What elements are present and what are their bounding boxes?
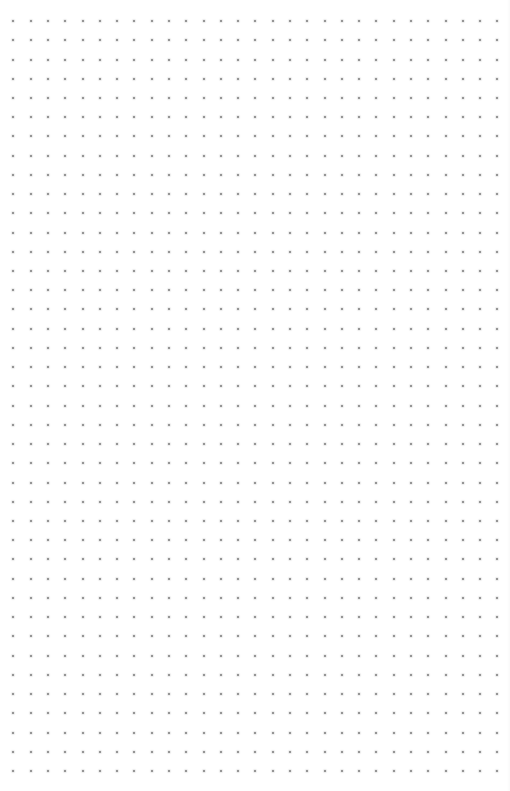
grid-dot bbox=[496, 616, 498, 618]
grid-dot bbox=[30, 39, 32, 41]
grid-dot bbox=[12, 385, 14, 387]
grid-dot bbox=[133, 135, 135, 137]
grid-dot bbox=[30, 405, 32, 407]
grid-dot bbox=[462, 712, 464, 714]
grid-dot bbox=[237, 712, 239, 714]
grid-dot bbox=[272, 443, 274, 445]
grid-dot bbox=[324, 462, 326, 464]
grid-dot bbox=[393, 520, 395, 522]
grid-dot bbox=[82, 116, 84, 118]
grid-dot bbox=[116, 251, 118, 253]
grid-dot bbox=[272, 251, 274, 253]
grid-dot bbox=[393, 597, 395, 599]
grid-dot bbox=[99, 578, 101, 580]
grid-dot bbox=[168, 20, 170, 22]
grid-dot bbox=[254, 289, 256, 291]
grid-dot bbox=[358, 482, 360, 484]
grid-dot bbox=[341, 155, 343, 157]
grid-dot bbox=[306, 405, 308, 407]
grid-dot bbox=[445, 328, 447, 330]
grid-dot bbox=[47, 501, 49, 503]
grid-dot bbox=[203, 443, 205, 445]
grid-dot bbox=[12, 751, 14, 753]
grid-dot bbox=[324, 655, 326, 657]
grid-dot bbox=[151, 424, 153, 426]
grid-dot bbox=[306, 597, 308, 599]
grid-dot bbox=[116, 97, 118, 99]
grid-dot bbox=[462, 501, 464, 503]
grid-dot bbox=[496, 597, 498, 599]
grid-dot bbox=[427, 270, 429, 272]
grid-dot bbox=[254, 347, 256, 349]
grid-dot bbox=[410, 462, 412, 464]
grid-dot bbox=[462, 616, 464, 618]
grid-dot bbox=[220, 97, 222, 99]
grid-dot bbox=[445, 366, 447, 368]
grid-dot bbox=[358, 39, 360, 41]
grid-dot bbox=[462, 597, 464, 599]
grid-dot bbox=[496, 482, 498, 484]
grid-dot bbox=[133, 770, 135, 772]
grid-dot bbox=[306, 424, 308, 426]
grid-dot bbox=[306, 501, 308, 503]
grid-dot bbox=[306, 270, 308, 272]
grid-dot bbox=[12, 635, 14, 637]
grid-dot bbox=[375, 501, 377, 503]
grid-dot bbox=[168, 693, 170, 695]
grid-dot bbox=[116, 558, 118, 560]
grid-dot bbox=[12, 97, 14, 99]
grid-dot bbox=[272, 674, 274, 676]
grid-dot bbox=[168, 712, 170, 714]
dot-grid bbox=[0, 0, 510, 791]
grid-dot bbox=[237, 732, 239, 734]
grid-dot bbox=[254, 462, 256, 464]
grid-dot bbox=[116, 39, 118, 41]
grid-dot bbox=[462, 116, 464, 118]
grid-dot bbox=[410, 174, 412, 176]
grid-dot bbox=[82, 482, 84, 484]
grid-dot bbox=[185, 97, 187, 99]
grid-dot bbox=[82, 578, 84, 580]
grid-dot bbox=[30, 366, 32, 368]
grid-dot bbox=[237, 116, 239, 118]
grid-dot bbox=[99, 135, 101, 137]
grid-dot bbox=[479, 385, 481, 387]
grid-dot bbox=[358, 655, 360, 657]
grid-dot bbox=[151, 135, 153, 137]
grid-dot bbox=[133, 462, 135, 464]
grid-dot bbox=[133, 251, 135, 253]
grid-dot bbox=[116, 78, 118, 80]
grid-dot bbox=[30, 770, 32, 772]
grid-dot bbox=[496, 674, 498, 676]
grid-dot bbox=[220, 482, 222, 484]
grid-dot bbox=[427, 732, 429, 734]
grid-dot bbox=[237, 674, 239, 676]
grid-dot bbox=[479, 597, 481, 599]
grid-dot bbox=[272, 520, 274, 522]
grid-dot bbox=[30, 59, 32, 61]
grid-dot bbox=[410, 405, 412, 407]
grid-dot bbox=[375, 251, 377, 253]
grid-dot bbox=[289, 328, 291, 330]
grid-dot bbox=[64, 443, 66, 445]
grid-dot bbox=[254, 424, 256, 426]
grid-dot bbox=[99, 462, 101, 464]
grid-dot bbox=[427, 289, 429, 291]
grid-dot bbox=[133, 270, 135, 272]
grid-dot bbox=[133, 597, 135, 599]
grid-dot bbox=[30, 308, 32, 310]
grid-dot bbox=[185, 155, 187, 157]
grid-dot bbox=[220, 424, 222, 426]
grid-dot bbox=[30, 289, 32, 291]
grid-dot bbox=[64, 655, 66, 657]
grid-dot bbox=[393, 616, 395, 618]
grid-dot bbox=[82, 770, 84, 772]
grid-dot bbox=[272, 59, 274, 61]
grid-dot bbox=[462, 539, 464, 541]
grid-dot bbox=[151, 462, 153, 464]
grid-dot bbox=[168, 770, 170, 772]
grid-dot bbox=[12, 155, 14, 157]
grid-dot bbox=[254, 155, 256, 157]
grid-dot bbox=[272, 616, 274, 618]
grid-dot bbox=[445, 97, 447, 99]
